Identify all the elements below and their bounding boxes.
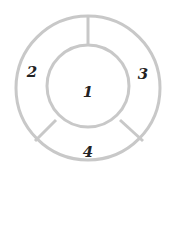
divider-bottom-right	[120, 120, 143, 141]
divider-bottom-left	[35, 120, 56, 141]
region-label-center: 1	[83, 85, 93, 100]
region-label-right: 3	[138, 67, 148, 82]
region-label-bottom: 4	[83, 145, 93, 160]
region-label-left: 2	[27, 65, 37, 80]
